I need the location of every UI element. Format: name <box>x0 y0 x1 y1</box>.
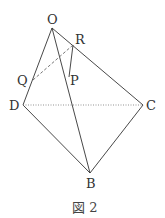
edge-OD <box>23 28 52 105</box>
label-C: C <box>146 98 156 113</box>
label-D: D <box>9 98 19 113</box>
edge-OB <box>52 28 90 173</box>
label-O: O <box>47 12 58 27</box>
edge-DB <box>23 105 90 173</box>
label-B: B <box>86 176 96 191</box>
label-R: R <box>75 32 86 47</box>
label-P: P <box>70 73 79 88</box>
edge-CB <box>90 105 143 173</box>
pyramid-diagram: O R Q P D C B 図 2 <box>0 0 165 218</box>
figure-caption: 図 2 <box>72 200 97 215</box>
edge-OC <box>52 28 143 105</box>
label-Q: Q <box>17 73 28 88</box>
